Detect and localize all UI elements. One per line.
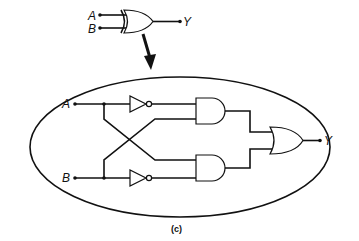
input-label-a: A: [61, 97, 70, 111]
output-label-y: Y: [324, 134, 333, 148]
input-label-b: B: [62, 171, 70, 185]
input-label-b-top: B: [88, 22, 96, 36]
expanded-circuit: A B Y: [61, 96, 333, 186]
xor-diagram: A B Y A B: [0, 0, 359, 241]
or-gate: [270, 127, 303, 154]
figure-caption: (c): [171, 224, 182, 234]
not-gate-b: [130, 170, 146, 186]
xor-symbol: A B Y: [87, 9, 192, 36]
input-label-a-top: A: [87, 9, 96, 23]
expand-arrow-icon: [143, 34, 150, 58]
not-gate-a: [130, 96, 146, 112]
and-gate-upper: [196, 98, 225, 124]
and-gate-lower: [196, 155, 225, 181]
output-label-y-top: Y: [183, 15, 192, 29]
